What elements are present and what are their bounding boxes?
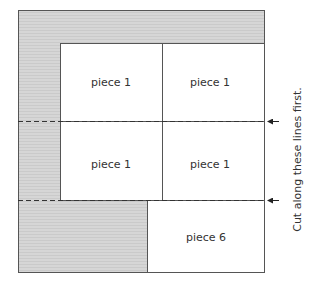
- piece-label: piece 1: [91, 76, 131, 89]
- piece-label: piece 1: [91, 158, 131, 171]
- piece-label: piece 1: [190, 76, 230, 89]
- piece-label: piece 1: [190, 158, 230, 171]
- piece-label: piece 6: [186, 231, 226, 244]
- diagram-svg: [0, 0, 309, 286]
- cutting-diagram: piece 1 piece 1 piece 1 piece 1 piece 6 …: [0, 0, 309, 286]
- cut-instruction: Cut along these lines first.: [291, 85, 304, 235]
